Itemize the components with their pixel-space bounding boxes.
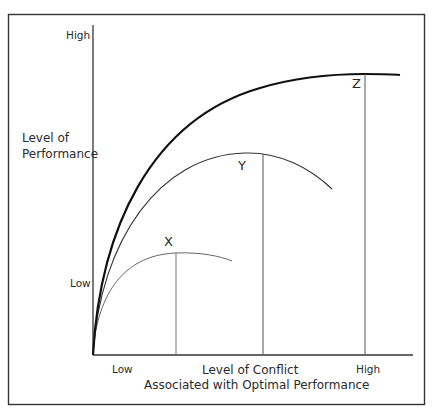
y-axis-title-line1: Level of <box>22 131 69 146</box>
diagram-canvas <box>0 0 432 411</box>
curve-x-label: X <box>164 234 173 249</box>
curve-z-label: Z <box>352 76 361 91</box>
x-axis-title-line1: Level of Conflict <box>202 363 298 378</box>
conflict-performance-diagram: High Level of Performance Low X Y Z Low … <box>0 0 432 411</box>
curve-x <box>93 253 232 355</box>
x-axis-low-label: Low <box>112 362 133 377</box>
y-axis-low-label: Low <box>70 276 91 291</box>
y-axis-high-label: High <box>66 28 90 43</box>
y-axis-title-line2: Performance <box>22 147 98 162</box>
x-axis-title-line2: Associated with Optimal Performance <box>144 378 369 393</box>
curve-z <box>93 74 400 355</box>
curve-y-label: Y <box>238 158 246 173</box>
x-axis-high-label: High <box>356 362 380 377</box>
curve-y <box>93 153 332 355</box>
